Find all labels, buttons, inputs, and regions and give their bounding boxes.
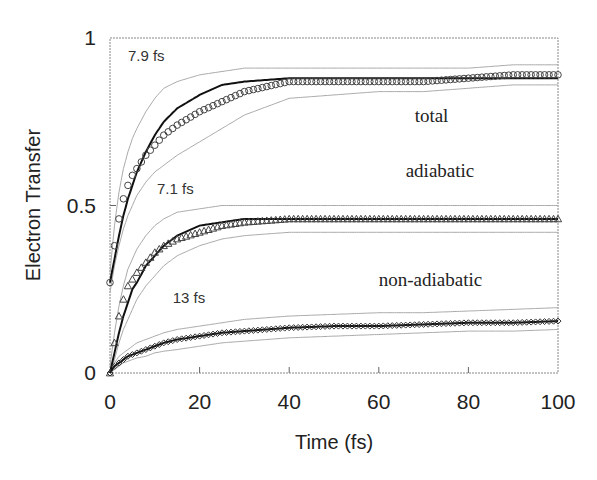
chart: 02040608010000.51 7.9 fs7.1 fs13 fstotal… bbox=[0, 0, 597, 480]
circle-marker bbox=[272, 81, 279, 88]
y-tick-label: 1 bbox=[84, 26, 96, 49]
x-tick-label: 20 bbox=[188, 390, 211, 413]
circle-marker bbox=[246, 87, 253, 94]
y-tick-label: 0.5 bbox=[67, 194, 96, 217]
time-constant-label: 13 fs bbox=[173, 289, 206, 306]
y-tick-label: 0 bbox=[84, 361, 96, 384]
x-axis-title: Time (fs) bbox=[295, 431, 373, 453]
y-axis-title: Electron Transfer bbox=[22, 129, 44, 282]
circle-marker bbox=[165, 129, 172, 136]
x-tick-label: 80 bbox=[457, 390, 480, 413]
time-constant-label: 7.9 fs bbox=[128, 47, 165, 64]
circle-marker bbox=[281, 79, 288, 86]
circle-marker bbox=[120, 196, 127, 203]
circle-marker bbox=[255, 85, 262, 92]
circle-marker bbox=[169, 125, 176, 132]
circle-marker bbox=[250, 86, 257, 93]
circle-marker bbox=[268, 82, 275, 89]
x-tick-label: 60 bbox=[367, 390, 390, 413]
circle-marker bbox=[116, 216, 123, 223]
series-label: non-adiabatic bbox=[379, 269, 482, 290]
annotations: 7.9 fs7.1 fs13 fstotaladiabaticnon-adiab… bbox=[128, 47, 482, 305]
triangle-marker bbox=[129, 276, 136, 282]
time-constant-label: 7.1 fs bbox=[157, 180, 194, 197]
x-tick-label: 40 bbox=[278, 390, 301, 413]
circle-marker bbox=[259, 84, 266, 91]
x-tick-label: 0 bbox=[104, 390, 116, 413]
triangle-marker bbox=[115, 312, 122, 318]
series-label: adiabatic bbox=[406, 160, 475, 181]
x-tick-label: 100 bbox=[540, 390, 575, 413]
triangle-marker bbox=[124, 282, 131, 288]
total-upper-band bbox=[110, 65, 558, 273]
circle-marker bbox=[125, 182, 132, 189]
circle-marker bbox=[160, 132, 167, 139]
circle-marker bbox=[264, 83, 271, 90]
series-label: total bbox=[415, 105, 449, 126]
circle-marker bbox=[277, 80, 284, 87]
